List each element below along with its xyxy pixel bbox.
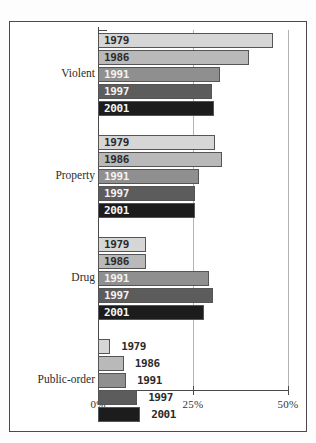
bar-year-label: 1986 — [104, 255, 129, 268]
group-label-violent: Violent — [61, 67, 95, 79]
bar-property-1997[interactable]: 1997 — [98, 186, 195, 201]
bar-year-label: 2001 — [151, 408, 176, 421]
chart-figure: 0%25%50% 1979198619911997200119791986199… — [0, 0, 316, 443]
bar-year-label: 1991 — [137, 374, 162, 387]
bar-year-label: 1979 — [104, 136, 129, 149]
y-axis-top-tick — [98, 27, 99, 34]
bar-public-order-1991[interactable]: 1991 — [98, 373, 126, 388]
bar-property-1979[interactable]: 1979 — [98, 135, 215, 150]
bar-violent-1991[interactable]: 1991 — [98, 67, 220, 82]
x-tick-label-50: 50% — [278, 398, 299, 410]
bar-drug-1979[interactable]: 1979 — [98, 237, 146, 252]
x-tick-50 — [288, 386, 289, 395]
bar-year-label: 1979 — [121, 340, 146, 353]
bar-public-order-2001[interactable]: 2001 — [98, 407, 140, 422]
bar-year-label: 1991 — [104, 68, 129, 81]
bar-violent-1986[interactable]: 1986 — [98, 50, 249, 65]
bar-violent-1979[interactable]: 1979 — [98, 33, 273, 48]
group-label-property: Property — [55, 169, 95, 181]
bar-year-label: 1986 — [104, 51, 129, 64]
y-axis-top-cap — [98, 30, 107, 31]
bar-public-order-1997[interactable]: 1997 — [98, 390, 137, 405]
bar-year-label: 1979 — [104, 34, 129, 47]
bar-public-order-1986[interactable]: 1986 — [98, 356, 124, 371]
bar-public-order-1979[interactable]: 1979 — [98, 339, 110, 354]
bar-year-label: 1997 — [104, 85, 129, 98]
gridline-50 — [288, 30, 289, 391]
bar-year-label: 1997 — [148, 391, 173, 404]
bar-year-label: 1991 — [104, 272, 129, 285]
bar-year-label: 1991 — [104, 170, 129, 183]
bar-property-1991[interactable]: 1991 — [98, 169, 199, 184]
bar-violent-2001[interactable]: 2001 — [98, 101, 214, 116]
chart-frame — [9, 21, 307, 432]
bar-year-label: 1986 — [135, 357, 160, 370]
bar-drug-1986[interactable]: 1986 — [98, 254, 146, 269]
bar-year-label: 2001 — [104, 306, 129, 319]
bar-year-label: 1997 — [104, 289, 129, 302]
bar-property-2001[interactable]: 2001 — [98, 203, 195, 218]
bar-drug-1991[interactable]: 1991 — [98, 271, 209, 286]
bar-drug-2001[interactable]: 2001 — [98, 305, 204, 320]
bar-year-label: 1997 — [104, 187, 129, 200]
bar-year-label: 1979 — [104, 238, 129, 251]
bar-violent-1997[interactable]: 1997 — [98, 84, 212, 99]
bar-year-label: 2001 — [104, 102, 129, 115]
group-label-drug: Drug — [71, 271, 95, 283]
x-tick-label-25: 25% — [183, 398, 204, 410]
bar-drug-1997[interactable]: 1997 — [98, 288, 213, 303]
bar-property-1986[interactable]: 1986 — [98, 152, 222, 167]
x-tick-25 — [193, 386, 194, 395]
bar-year-label: 2001 — [104, 204, 129, 217]
bar-year-label: 1986 — [104, 153, 129, 166]
group-label-public-order: Public-order — [38, 373, 95, 385]
